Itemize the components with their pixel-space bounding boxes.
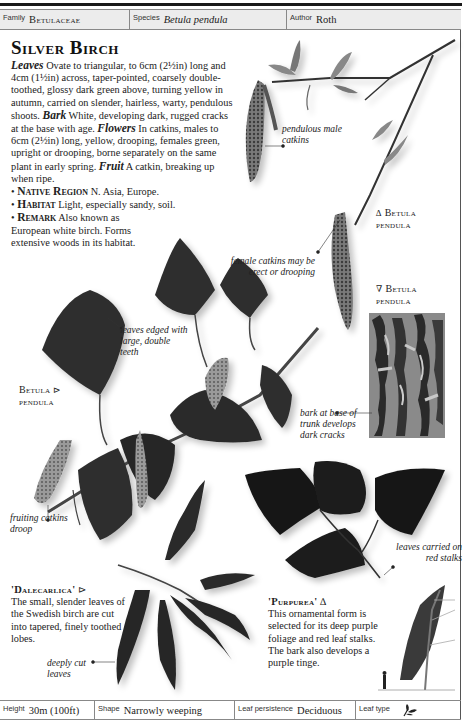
caption-female-catkins: female catkins may be erect or drooping — [213, 256, 315, 278]
cultivar-purpurea: 'Purpurea' ∆ This ornamental form is sel… — [268, 596, 380, 669]
leaves-key: Leaves — [11, 59, 44, 71]
cultivar-name: 'Dalecarlica' — [11, 584, 75, 595]
dalecarlica-leaves-illustration — [117, 480, 256, 690]
species-description: Leaves Ovate to triangular, to 6cm (2½in… — [11, 59, 233, 249]
shape-cell: Shape Narrowly weeping — [95, 701, 235, 719]
leaf-persistence-label: Leaf persistence — [238, 704, 293, 713]
height-cell: Height 30m (100ft) — [0, 701, 95, 719]
bullet-habitat: • Habitat Light, especially sandy, soil. — [11, 198, 233, 211]
cultivar-dalecarlica: 'Dalecarlica' ⊳ The small, slender leave… — [11, 584, 126, 645]
page-title: Silver Birch — [11, 37, 119, 59]
bullet-remark: • Remark Also known as European white bi… — [11, 211, 141, 249]
leaf-persistence-cell: Leaf persistence Deciduous — [235, 701, 356, 719]
caption-leaves-edged: leaves edged with large, double teeth — [120, 325, 188, 358]
leaf-type-label: Leaf type — [359, 704, 390, 713]
bark-key: Bark — [42, 109, 66, 121]
bullet-native-region: • Native Region N. Asia, Europe. — [11, 185, 233, 198]
caption-fruiting-catkins: fruiting catkins droop — [10, 513, 70, 535]
shape-label: Shape — [98, 704, 120, 713]
height-value: 30m (100ft) — [29, 705, 79, 716]
caption-deeply-cut: deeply cut leaves — [47, 658, 92, 680]
label-branch-betula-pendula: Betula ⊳pendula — [19, 384, 62, 407]
caption-male-catkins: pendulous male catkins — [282, 124, 362, 146]
fruit-key: Fruit — [99, 160, 124, 172]
leaf-type-cell: Leaf type — [356, 701, 461, 719]
footer-bar: Height 30m (100ft) Shape Narrowly weepin… — [0, 700, 461, 720]
caption-bark: bark at base of trunk develops dark crac… — [300, 408, 364, 441]
tree-silhouette-illustration — [378, 585, 455, 690]
bark-illustration — [369, 313, 445, 438]
caption-red-stalks: leaves carried on red stalks — [392, 542, 462, 564]
height-label: Height — [3, 704, 25, 713]
label-bark-betula-pendula: ∇ Betulapendula — [376, 283, 417, 306]
leaf-icon — [402, 703, 418, 717]
shape-value: Narrowly weeping — [124, 705, 202, 716]
flowers-key: Flowers — [97, 122, 135, 134]
female-catkin-illustration — [332, 212, 353, 330]
cultivar-text: This ornamental form is selected for its… — [268, 608, 378, 668]
cultivar-text: The small, slender leaves of the Swedish… — [11, 596, 125, 644]
leaf-persistence-value: Deciduous — [297, 705, 342, 716]
label-shoot-betula-pendula: ∆ Betulapendula — [376, 207, 416, 230]
cultivar-name: 'Purpurea' — [268, 596, 317, 607]
